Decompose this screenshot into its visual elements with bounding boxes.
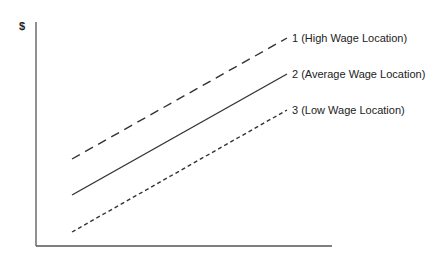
line-average-wage [72,74,287,195]
label-high-wage: 1 (High Wage Location) [292,32,407,44]
label-low-wage: 3 (Low Wage Location) [292,104,405,116]
line-high-wage [72,38,287,159]
line-low-wage [72,110,287,232]
y-axis-label: $ [19,20,25,32]
label-average-wage: 2 (Average Wage Location) [292,68,425,80]
